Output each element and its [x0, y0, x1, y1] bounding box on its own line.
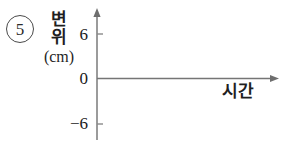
x-axis-arrowhead-icon [270, 75, 279, 82]
answer-option-figure: 5 변 위 (cm) 6 0 −6 시간 [0, 0, 289, 153]
x-axis-title: 시간 [222, 83, 254, 100]
graph-axes-and-plot [0, 0, 289, 153]
y-axis-arrowhead-icon [93, 8, 100, 17]
